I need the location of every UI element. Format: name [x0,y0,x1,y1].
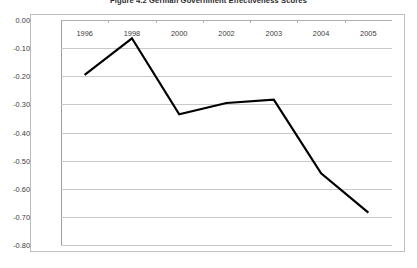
x-axis-tick-mark [250,20,251,23]
x-axis-tick-label: 2004 [313,29,329,38]
chart-title: Figure 4.2 German Government Effectivene… [0,0,417,6]
line-series [61,20,392,245]
y-axis-tick-label: -0.10 [0,44,30,53]
y-axis-tick-label: -0.50 [0,156,30,165]
data-line [85,38,369,212]
y-axis-tick-label: -0.80 [0,241,30,250]
plot-area [61,20,392,245]
y-axis-tick-label: 0.00 [0,16,30,25]
chart-figure: Figure 4.2 German Government Effectivene… [0,0,417,268]
x-axis-tick-label: 1998 [124,29,140,38]
x-axis-tick-mark [345,20,346,23]
y-axis-tick-label: -0.30 [0,100,30,109]
x-axis-tick-label: 2003 [266,29,282,38]
y-axis-tick-label: -0.20 [0,72,30,81]
y-axis-tick-label: -0.40 [0,128,30,137]
x-axis-tick-label: 2002 [218,29,234,38]
y-axis-tick-label: -0.60 [0,184,30,193]
x-axis-tick-label: 2005 [360,29,376,38]
x-axis-tick-mark [203,20,204,23]
x-axis-tick-mark [108,20,109,23]
x-axis-tick-labels: 1996199820002002200320042005 [61,20,392,42]
x-axis-tick-label: 1996 [76,29,92,38]
x-axis-tick-label: 2000 [171,29,187,38]
x-axis-tick-mark [297,20,298,23]
gridline [61,245,392,246]
y-axis-tick-label: -0.70 [0,212,30,221]
x-axis-tick-mark [156,20,157,23]
